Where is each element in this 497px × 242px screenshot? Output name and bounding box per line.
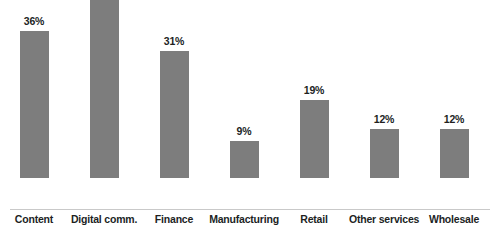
x-tick-label-retail: Retail — [279, 214, 349, 226]
x-tick-label-content: Content — [0, 214, 69, 226]
bar-rect[interactable] — [20, 31, 49, 178]
bar-slot: 19% — [279, 0, 349, 178]
bar-group-other-services[interactable]: 12% — [349, 0, 419, 178]
x-tick-label-manufacturing: Manufacturing — [209, 214, 279, 226]
bar-slot: 44% — [69, 0, 139, 178]
bar-slot: 12% — [419, 0, 489, 178]
bar-rect[interactable] — [160, 51, 189, 178]
bar-rect[interactable] — [90, 0, 119, 178]
bar-value-label: 12% — [374, 114, 394, 125]
bar-value-label: 9% — [237, 126, 252, 137]
bar-rect[interactable] — [370, 129, 399, 178]
bar-chart: 36% 44% 31% 9% 19% — [0, 0, 497, 242]
bar-slot: 36% — [0, 0, 69, 178]
bar-group-manufacturing[interactable]: 9% — [209, 0, 279, 178]
x-tick-label-wholesale: Wholesale — [419, 214, 489, 226]
bar-slot: 12% — [349, 0, 419, 178]
x-tick-label-other-services: Other services — [349, 214, 419, 226]
bar-group-wholesale[interactable]: 12% — [419, 0, 489, 178]
bar-slot: 9% — [209, 0, 279, 178]
x-axis-line — [10, 209, 490, 210]
plot-area: 36% 44% 31% 9% 19% — [0, 0, 497, 210]
bar-rect[interactable] — [300, 100, 329, 178]
x-tick-label-finance: Finance — [139, 214, 209, 226]
bar-slot: 31% — [139, 0, 209, 178]
bar-rect[interactable] — [230, 141, 259, 178]
bar-group-retail[interactable]: 19% — [279, 0, 349, 178]
bar-group-digital-comm[interactable]: 44% — [69, 0, 139, 178]
x-tick-label-digital-comm: Digital comm. — [69, 214, 139, 226]
bar-rect[interactable] — [440, 129, 469, 178]
bar-group-finance[interactable]: 31% — [139, 0, 209, 178]
bar-group-content[interactable]: 36% — [0, 0, 69, 178]
bar-value-label: 31% — [164, 36, 184, 47]
bar-value-label: 12% — [444, 114, 464, 125]
bar-value-label: 19% — [304, 85, 324, 96]
bar-value-label: 36% — [24, 16, 44, 27]
